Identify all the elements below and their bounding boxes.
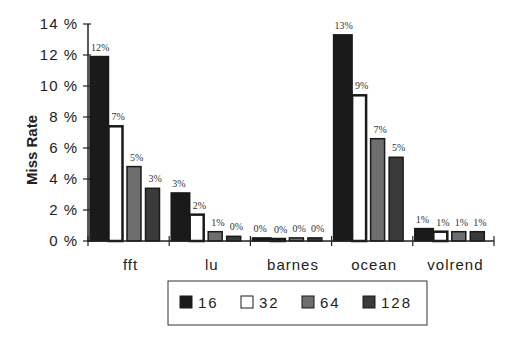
y-axis-label: Miss Rate — [23, 115, 40, 185]
data-label-barnes-32: 0% — [274, 224, 287, 235]
y-tick-label: 14 % — [40, 15, 78, 32]
bar-ocean-16 — [334, 35, 353, 241]
data-label-lu-128: 0% — [230, 221, 243, 232]
data-label-barnes-16: 0% — [253, 223, 266, 234]
x-tick-label-volrend: volrend — [427, 256, 483, 273]
y-tick-label: 12 % — [40, 46, 78, 63]
bar-fft-16 — [90, 57, 109, 241]
data-label-ocean-128: 5% — [392, 142, 405, 153]
legend-label-64: 64 — [320, 294, 341, 311]
bar-lu-64 — [208, 232, 222, 241]
data-label-lu-16: 3% — [172, 178, 185, 189]
data-label-lu-64: 1% — [211, 217, 224, 228]
bar-ocean-64 — [371, 139, 385, 241]
legend-swatch-16 — [180, 296, 192, 308]
data-label-ocean-16: 13% — [335, 20, 353, 31]
data-label-ocean-32: 9% — [355, 80, 368, 91]
legend-swatch-128 — [363, 296, 375, 308]
y-axis: 0 %2 %4 %6 %8 %10 %12 %14 % — [40, 15, 91, 249]
bar-volrend-64 — [452, 232, 466, 241]
data-label-volrend-32: 1% — [436, 217, 449, 228]
bar-lu-32 — [190, 215, 204, 241]
y-tick-label: 8 % — [49, 108, 78, 125]
bar-ocean-128 — [389, 157, 403, 241]
bar-volrend-16 — [415, 229, 434, 241]
legend-swatch-32 — [241, 296, 253, 308]
x-tick-label-fft: fft — [123, 256, 138, 273]
y-tick-label: 10 % — [40, 77, 78, 94]
y-tick-label: 2 % — [49, 201, 78, 218]
legend-label-32: 32 — [259, 294, 280, 311]
y-tick-label: 6 % — [49, 139, 78, 156]
data-label-fft-32: 7% — [112, 111, 125, 122]
data-label-fft-16: 12% — [91, 42, 109, 53]
bars: 12%7%5%3%3%2%1%0%0%0%0%0%13%9%7%5%1%1%1%… — [90, 20, 487, 241]
bar-ocean-32 — [352, 95, 366, 241]
legend-label-16: 16 — [198, 294, 219, 311]
data-label-barnes-128: 0% — [311, 223, 324, 234]
bar-fft-64 — [127, 167, 141, 241]
x-tick-label-barnes: barnes — [267, 256, 319, 273]
data-label-barnes-64: 0% — [292, 223, 305, 234]
y-tick-label: 4 % — [49, 170, 78, 187]
data-label-fft-128: 3% — [149, 173, 162, 184]
bar-lu-16 — [171, 193, 190, 241]
data-label-volrend-128: 1% — [473, 217, 486, 228]
legend-label-128: 128 — [381, 294, 412, 311]
x-tick-label-lu: lu — [205, 256, 219, 273]
legend-swatch-64 — [302, 296, 314, 308]
data-label-ocean-64: 7% — [374, 124, 387, 135]
y-tick-label: 0 % — [49, 232, 78, 249]
bar-volrend-128 — [470, 232, 484, 241]
x-axis: fftlubarnesoceanvolrend — [88, 236, 494, 273]
data-label-volrend-64: 1% — [455, 217, 468, 228]
miss-rate-bar-chart: Miss Rate 0 %2 %4 %6 %8 %10 %12 %14 % 12… — [0, 0, 523, 342]
data-label-volrend-16: 1% — [416, 214, 429, 225]
data-label-lu-32: 2% — [193, 200, 206, 211]
bar-fft-32 — [109, 126, 123, 241]
bar-fft-128 — [146, 188, 160, 241]
x-tick-label-ocean: ocean — [351, 256, 397, 273]
bar-volrend-32 — [433, 232, 447, 241]
legend: 163264128 — [168, 281, 427, 325]
data-label-fft-64: 5% — [130, 152, 143, 163]
